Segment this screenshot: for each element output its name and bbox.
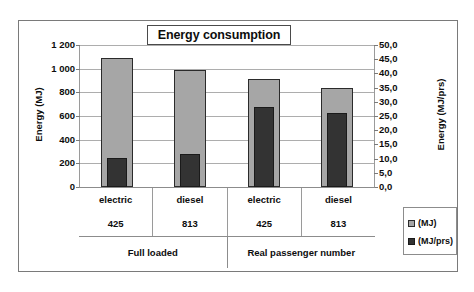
category-label-count: 813 [152, 210, 226, 236]
y-axis-right-tickmark [374, 88, 378, 89]
y-axis-right-tickmark [374, 116, 378, 117]
y-axis-right-tickmark [374, 159, 378, 160]
y-axis-right-tick-label: 40,0 [379, 68, 398, 78]
y-axis-right-tick-label: 15,0 [379, 139, 398, 149]
category-axis: electricdieselelectricdiesel 42581342581… [79, 187, 375, 267]
bar-slot [301, 45, 375, 187]
chart-title: Energy consumption [147, 25, 291, 45]
y-axis-left-tick-label: 600 [59, 111, 75, 121]
y-axis-left-tick-label: 1 000 [51, 64, 75, 74]
bar-group [80, 45, 374, 187]
y-axis-left-tick-label: 1 200 [51, 40, 75, 50]
y-axis-right-tickmark [374, 173, 378, 174]
y-axis-left-tick-label: 800 [59, 87, 75, 97]
y-axis-right-tick-label: 30,0 [379, 97, 398, 107]
bar-slot [227, 45, 301, 187]
y-axis-right-ticks: 0,05,010,015,020,025,030,035,040,045,050… [375, 39, 409, 187]
y-axis-right-tickmark [374, 130, 378, 131]
category-label-count: 813 [301, 210, 375, 236]
legend-swatch-mjprs [408, 238, 415, 245]
y-axis-right-tick-label: 45,0 [379, 54, 398, 64]
y-axis-right-title: Energy (MJ/prs) [435, 60, 446, 170]
bar-mj-per-prs[interactable] [180, 154, 200, 188]
category-label-count: 425 [79, 210, 152, 236]
y-axis-right-tickmark [374, 45, 378, 46]
y-axis-left-tick-label: 0 [70, 182, 75, 192]
y-axis-right-tick-label: 0,0 [379, 182, 392, 192]
bar-mj-per-prs[interactable] [327, 113, 347, 187]
bar-slot [80, 45, 154, 187]
legend-item-label: (MJ/prs) [418, 236, 453, 246]
plot-area [79, 45, 375, 187]
category-label-mode: electric [79, 188, 152, 210]
y-axis-right-tick-label: 25,0 [379, 111, 398, 121]
legend-item-label: (MJ) [418, 218, 437, 228]
y-axis-left-tick-label: 200 [59, 158, 75, 168]
legend-item[interactable]: (MJ/prs) [408, 232, 456, 250]
bar-mj-per-prs[interactable] [107, 158, 127, 187]
category-label-mode: electric [227, 188, 301, 210]
category-label-group: Full loaded [79, 237, 227, 268]
category-row-count: 425813425813 [79, 210, 375, 236]
y-axis-right-tick-label: 20,0 [379, 125, 398, 135]
chart-container: Energy consumption Energy (MJ) Energy (M… [18, 20, 458, 272]
y-axis-left-tick-label: 400 [59, 135, 75, 145]
y-axis-right-tick-label: 50,0 [379, 40, 398, 50]
category-label-mode: diesel [152, 188, 226, 210]
y-axis-right-tick-label: 10,0 [379, 154, 398, 164]
category-row-mode: electricdieselelectricdiesel [79, 188, 375, 210]
legend-swatch-mj [408, 220, 415, 227]
bar-slot [154, 45, 228, 187]
category-label-group: Real passenger number [227, 237, 376, 268]
chart-legend: (MJ)(MJ/prs) [403, 207, 457, 255]
y-axis-right-tickmark [374, 59, 378, 60]
y-axis-right-tick-label: 35,0 [379, 83, 398, 93]
legend-item[interactable]: (MJ) [408, 214, 456, 232]
y-axis-right-tickmark [374, 73, 378, 74]
y-axis-left-ticks: 02004006008001 0001 200 [33, 39, 79, 187]
y-axis-right-tick-label: 5,0 [379, 168, 392, 178]
category-row-group: Full loadedReal passenger number [79, 236, 375, 268]
category-label-mode: diesel [301, 188, 375, 210]
y-axis-right-tickmark [374, 102, 378, 103]
category-label-count: 425 [227, 210, 301, 236]
y-axis-right-tickmark [374, 144, 378, 145]
bar-mj-per-prs[interactable] [254, 107, 274, 187]
